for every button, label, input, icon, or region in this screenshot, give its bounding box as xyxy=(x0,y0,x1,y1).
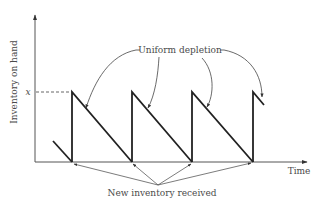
cycle-2 xyxy=(132,92,192,162)
uniform-depletion-label: Uniform depletion xyxy=(138,45,222,55)
inventory-sawtooth-diagram: Inventory on hand Time x Uniform depleti… xyxy=(0,0,320,207)
depletion-leader-2 xyxy=(148,57,159,108)
y-axis-label: Inventory on hand xyxy=(9,40,19,124)
receipt-leader-lines xyxy=(74,163,251,185)
depletion-leader-3 xyxy=(202,58,212,107)
receipt-leader-3 xyxy=(158,164,191,185)
cycle-4-start xyxy=(253,92,264,162)
initial-depletion-segment xyxy=(53,141,72,162)
level-x-label: x xyxy=(25,87,30,97)
x-axis-label: Time xyxy=(288,166,311,176)
sawtooth-line xyxy=(53,92,264,162)
cycle-3 xyxy=(192,92,253,162)
depletion-leader-lines xyxy=(86,50,262,108)
receipt-leader-4 xyxy=(158,163,251,185)
cycle-1 xyxy=(72,92,132,162)
depletion-leader-4 xyxy=(220,50,262,97)
axes xyxy=(35,15,307,162)
new-inventory-received-label: New inventory received xyxy=(108,188,217,198)
